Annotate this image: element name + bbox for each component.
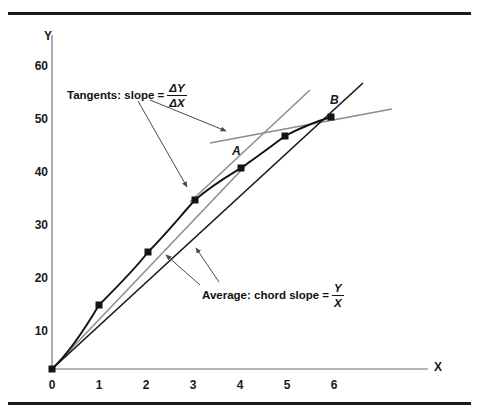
annotation-average: Average: chord slope = Y X bbox=[202, 282, 344, 309]
tangent-line-at-b bbox=[210, 109, 392, 143]
x-tick-label-2: 2 bbox=[138, 379, 154, 391]
data-point-marker bbox=[282, 133, 289, 140]
point-label-b: B bbox=[330, 94, 339, 106]
x-tick-label-4: 4 bbox=[232, 379, 248, 391]
leader-arrow-chord-a bbox=[166, 255, 200, 285]
leader-arrow-tangent-a bbox=[138, 101, 187, 187]
data-point-marker bbox=[145, 249, 152, 256]
y-tick-label-40: 40 bbox=[24, 166, 48, 178]
figure-container: Y X 60 50 40 30 20 10 0 1 2 3 4 5 6 A B … bbox=[0, 0, 479, 416]
annotation-average-fraction: Y X bbox=[332, 282, 344, 309]
x-tick-label-6: 6 bbox=[326, 379, 342, 391]
annotation-tangents-fraction: ΔY ΔX bbox=[167, 82, 186, 109]
y-tick-label-20: 20 bbox=[24, 272, 48, 284]
tangent-line-at-a bbox=[190, 90, 310, 202]
x-tick-label-1: 1 bbox=[91, 379, 107, 391]
y-tick-label-30: 30 bbox=[24, 219, 48, 231]
data-point-marker bbox=[238, 165, 245, 172]
annotation-tangents: Tangents: slope = ΔY ΔX bbox=[67, 82, 187, 109]
x-tick-label-5: 5 bbox=[279, 379, 295, 391]
data-point-marker bbox=[49, 366, 56, 373]
annotation-average-text: Average: chord slope = bbox=[202, 290, 329, 302]
chord-line-through-a bbox=[52, 161, 250, 369]
y-tick-label-50: 50 bbox=[24, 113, 48, 125]
y-axis-label: Y bbox=[44, 30, 52, 42]
plot-canvas bbox=[0, 0, 479, 416]
point-label-a: A bbox=[232, 145, 241, 157]
y-tick-label-10: 10 bbox=[24, 325, 48, 337]
data-point-marker bbox=[96, 302, 103, 309]
annotation-tangents-text: Tangents: slope = bbox=[67, 90, 164, 102]
annotation-average-numerator: Y bbox=[332, 282, 344, 296]
data-point-marker bbox=[328, 114, 335, 121]
chord-line-through-b bbox=[52, 83, 363, 369]
leader-arrow-chord-b bbox=[196, 248, 219, 282]
annotation-tangents-numerator: ΔY bbox=[167, 82, 186, 96]
y-tick-label-60: 60 bbox=[24, 60, 48, 72]
x-axis-label: X bbox=[434, 361, 442, 373]
x-tick-label-0: 0 bbox=[44, 379, 60, 391]
data-point-marker bbox=[192, 197, 199, 204]
annotation-average-denominator: X bbox=[332, 296, 344, 309]
x-tick-label-3: 3 bbox=[185, 379, 201, 391]
annotation-tangents-denominator: ΔX bbox=[167, 96, 186, 109]
